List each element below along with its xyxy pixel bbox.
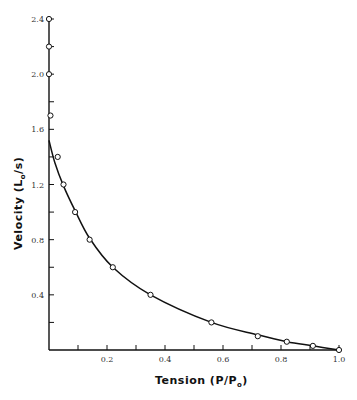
data-point (148, 292, 153, 297)
tick-labels: 0.20.40.60.81.00.40.81.21.62.02.4 (31, 15, 345, 364)
x-tick-label: 0.4 (159, 355, 172, 364)
data-point (48, 113, 53, 118)
chart: 0.20.40.60.81.00.40.81.21.62.02.4 Tensio… (0, 0, 357, 400)
fitted-curve-path (49, 140, 339, 350)
data-point (46, 16, 51, 21)
y-tick-label: 0.4 (31, 291, 44, 300)
y-tick-label: 1.2 (31, 181, 44, 190)
x-tick-label: 1.0 (333, 355, 346, 364)
x-tick-label: 0.8 (275, 355, 288, 364)
data-point (284, 339, 289, 344)
data-points (46, 16, 341, 352)
y-tick-label: 2.4 (31, 15, 44, 24)
y-tick-label: 2.0 (31, 70, 44, 79)
x-tick-label: 0.6 (217, 355, 230, 364)
y-tick-label: 1.6 (31, 125, 44, 134)
x-axis-label: Tension (P/Po) (155, 374, 248, 389)
data-point (55, 154, 60, 159)
data-point (46, 72, 51, 77)
data-point (87, 237, 92, 242)
fitted-curve (49, 140, 339, 350)
data-point (61, 182, 66, 187)
data-point (209, 320, 214, 325)
data-point (110, 265, 115, 270)
y-axis-label: Velocity (Lo/s) (12, 157, 27, 250)
data-point (336, 347, 341, 352)
y-tick-label: 0.8 (31, 236, 44, 245)
data-point (255, 334, 260, 339)
data-point (310, 343, 315, 348)
x-tick-label: 0.2 (101, 355, 114, 364)
data-point (73, 209, 78, 214)
data-point (46, 44, 51, 49)
axes (49, 19, 341, 350)
